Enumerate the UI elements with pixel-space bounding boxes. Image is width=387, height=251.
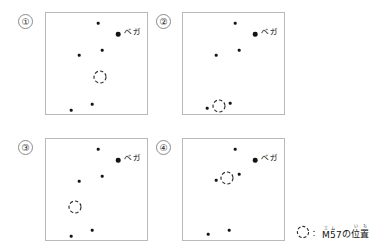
- legend-separator: ：: [312, 227, 320, 238]
- panel-number-1: ①: [18, 14, 33, 29]
- panel-number-3: ③: [18, 140, 33, 155]
- star-dot: [70, 235, 73, 238]
- m57-ring-1: [93, 70, 108, 85]
- star-dot: [206, 107, 209, 110]
- star-dot: [78, 180, 81, 183]
- star-dot: [91, 103, 94, 106]
- star-dot: [215, 54, 218, 57]
- dashed-circle-icon: [296, 225, 310, 239]
- legend: ： Mエ5ム7の位い置ち: [296, 224, 369, 240]
- m57-ring-4: [220, 171, 235, 186]
- star-dot: [101, 175, 104, 178]
- star-dot: [238, 173, 241, 176]
- star-dot: [207, 233, 210, 236]
- star-dot: [215, 179, 218, 182]
- star-chart-figure: ①ベガ②ベガ③ベガ④ベガ: [0, 0, 387, 251]
- legend-ruby-4: 位い: [351, 224, 360, 240]
- legend-char-3: の: [342, 227, 351, 240]
- vega-star: [253, 32, 258, 37]
- star-dot: [228, 229, 231, 232]
- m57-ring-2: [212, 99, 227, 114]
- vega-star: [253, 158, 258, 163]
- star-dot: [238, 49, 241, 52]
- sky-box-4: ベガ: [182, 138, 285, 241]
- legend-ruby-0: Mエ: [322, 226, 330, 240]
- star-dot: [234, 148, 237, 151]
- legend-ruby-5: 置ち: [360, 224, 369, 240]
- star-dot: [97, 22, 100, 25]
- vega-star: [116, 32, 121, 37]
- star-dot: [234, 22, 237, 25]
- legend-label: Mエ5ム7の位い置ち: [322, 224, 369, 240]
- sky-box-3: ベガ: [45, 138, 148, 241]
- panel-number-4: ④: [156, 140, 171, 155]
- star-dot: [101, 49, 104, 52]
- sky-box-2: ベガ: [182, 12, 285, 115]
- panel-number-2: ②: [156, 14, 171, 29]
- star-dot: [78, 54, 81, 57]
- m57-ring-3: [68, 200, 83, 215]
- vega-star: [116, 158, 121, 163]
- vega-label: ベガ: [260, 25, 278, 38]
- vega-label: ベガ: [123, 151, 141, 164]
- star-dot: [97, 148, 100, 151]
- star-dot: [70, 109, 73, 112]
- star-dot: [229, 102, 232, 105]
- vega-label: ベガ: [260, 151, 278, 164]
- sky-box-1: ベガ: [45, 12, 148, 115]
- star-dot: [91, 229, 94, 232]
- vega-label: ベガ: [123, 25, 141, 38]
